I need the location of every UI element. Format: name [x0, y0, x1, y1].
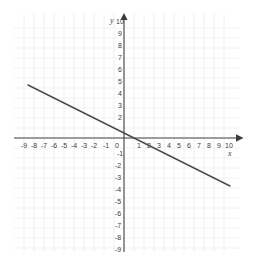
xtick-origin: 0 — [115, 142, 119, 149]
ytick-neg5: -5 — [115, 198, 121, 205]
ytick-pos3: 3 — [118, 102, 122, 109]
xtick-neg7: -7 — [41, 142, 47, 149]
ytick-pos10: 10 — [116, 18, 124, 25]
xtick-pos8: 8 — [207, 142, 211, 149]
plotted-line — [28, 85, 230, 186]
xtick-neg9: -9 — [21, 142, 27, 149]
ytick-pos4: 4 — [118, 90, 122, 97]
ytick-neg3: -3 — [115, 174, 121, 181]
ytick-neg2: -2 — [115, 162, 121, 169]
xtick-neg2: -2 — [91, 142, 97, 149]
ytick-pos6: 6 — [118, 66, 122, 73]
xtick-pos4: 4 — [167, 142, 171, 149]
xtick-pos6: 6 — [187, 142, 191, 149]
graph-canvas — [0, 0, 253, 264]
ytick-neg7: -7 — [115, 222, 121, 229]
ytick-neg1: -1 — [117, 150, 123, 157]
xtick-pos9: 9 — [217, 142, 221, 149]
xtick-pos1: 1 — [137, 142, 141, 149]
ytick-neg9: -9 — [115, 246, 121, 253]
coordinate-plane-graph: y x -9 -8 -7 -6 -5 -4 -3 -2 -1 0 1 2 3 4… — [0, 0, 253, 264]
y-axis-label: y — [110, 17, 114, 25]
xtick-neg1: -1 — [103, 142, 109, 149]
ytick-neg8: -8 — [115, 234, 121, 241]
xtick-neg6: -6 — [51, 142, 57, 149]
ytick-pos9: 9 — [118, 30, 122, 37]
xtick-neg3: -3 — [81, 142, 87, 149]
xtick-pos7: 7 — [197, 142, 201, 149]
ytick-pos7: 7 — [118, 54, 122, 61]
xtick-pos2: 2 — [147, 142, 151, 149]
ytick-pos2: 2 — [118, 114, 122, 121]
xtick-pos10: 10 — [225, 142, 233, 149]
xtick-neg4: -4 — [71, 142, 77, 149]
xtick-neg8: -8 — [31, 142, 37, 149]
xtick-pos5: 5 — [177, 142, 181, 149]
ytick-neg4: -4 — [115, 186, 121, 193]
x-axis-label: x — [228, 150, 232, 158]
xtick-pos3: 3 — [157, 142, 161, 149]
ytick-pos5: 5 — [118, 78, 122, 85]
ytick-neg6: -6 — [115, 210, 121, 217]
xtick-neg5: -5 — [61, 142, 67, 149]
ytick-pos8: 8 — [118, 42, 122, 49]
